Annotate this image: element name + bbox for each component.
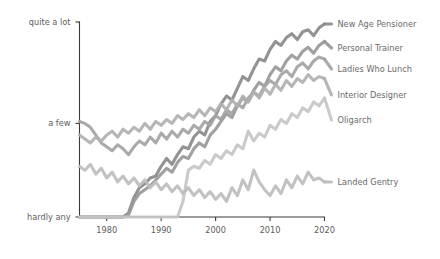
legend-connector: [325, 98, 332, 120]
y-tick-label: quite a lot: [29, 17, 71, 27]
chart-container: hardly anya fewquite a lot 1980199020002…: [0, 0, 440, 259]
legend-connector: [325, 79, 332, 95]
legend-label[interactable]: Ladies Who Lunch: [338, 64, 412, 74]
y-axis: hardly anya fewquite a lot: [27, 17, 79, 222]
legend-label[interactable]: Oligarch: [338, 115, 372, 125]
legend-label[interactable]: New Age Pensioner: [338, 19, 418, 29]
legend-label[interactable]: Personal Trainer: [338, 43, 404, 53]
x-tick-label: 1980: [96, 225, 117, 235]
series-line: [80, 42, 325, 218]
x-tick-label: 2010: [260, 225, 281, 235]
legend-connector: [325, 42, 332, 49]
legend-connector: [325, 59, 332, 69]
x-tick-label: 2000: [205, 225, 226, 235]
y-tick-label: a few: [48, 118, 71, 128]
series-line: [80, 164, 325, 201]
line-chart: hardly anya fewquite a lot 1980199020002…: [0, 0, 440, 259]
series-lines: [80, 24, 325, 217]
legend-label[interactable]: Landed Gentry: [338, 177, 399, 187]
legend-label[interactable]: Interior Designer: [338, 90, 408, 100]
x-axis: 19801990200020102020: [80, 217, 335, 235]
y-tick-label: hardly any: [27, 212, 71, 222]
x-tick-label: 2020: [314, 225, 335, 235]
series-line: [80, 57, 325, 155]
series-line: [80, 98, 325, 217]
legend: New Age PensionerPersonal TrainerLadies …: [325, 19, 418, 187]
x-tick-label: 1990: [151, 225, 172, 235]
